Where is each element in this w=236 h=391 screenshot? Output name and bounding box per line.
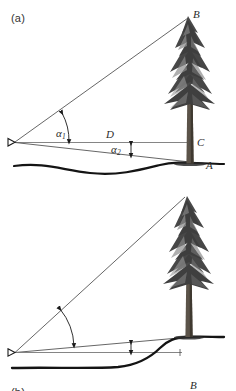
- sight-line-to-top: [15, 18, 188, 142]
- sight-line-to-top: [15, 197, 185, 353]
- panel-a-label-A: A: [206, 160, 213, 171]
- observer-eye-icon: [8, 139, 15, 147]
- panel-a-caption: (a): [11, 12, 25, 24]
- observer-eye-icon: [8, 349, 15, 356]
- panel-a: (a) B C A D α1 α2: [0, 0, 236, 190]
- panel-a-label-C: C: [197, 137, 204, 148]
- panel-b-drawing: [0, 190, 236, 391]
- panel-a-label-alpha2: α2: [111, 144, 121, 157]
- panel-a-drawing: [0, 0, 236, 190]
- panel-b: (b) B A C D α1 α2: [0, 190, 236, 391]
- angle-alpha1-arc: [60, 309, 74, 346]
- panel-b-label-B: B: [190, 380, 197, 391]
- figure-tree-height-measurement: (a) B C A D α1 α2: [0, 0, 236, 391]
- sight-line-to-base: [15, 143, 190, 163]
- panel-a-label-alpha1: α1: [56, 128, 66, 141]
- panel-a-label-B: B: [193, 9, 200, 20]
- panel-b-caption: (b): [11, 386, 25, 391]
- panel-a-label-D: D: [106, 129, 114, 140]
